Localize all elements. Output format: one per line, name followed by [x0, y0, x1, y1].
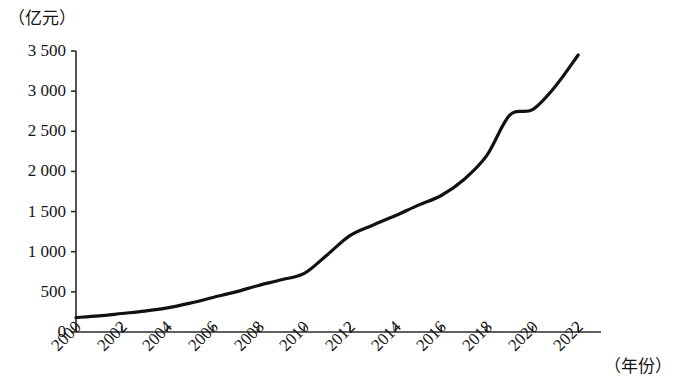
y-axis-unit-label: （亿元）: [8, 4, 76, 29]
y-axis-tick-label: 500: [4, 283, 66, 300]
y-axis-tick-label: 2 500: [4, 122, 66, 139]
y-axis-tick-label: 1 000: [4, 243, 66, 260]
y-axis-tick-label: 1 500: [4, 203, 66, 220]
x-axis-unit-label: （年份）: [604, 352, 672, 377]
chart-axes: [76, 51, 601, 332]
y-axis-tick-label: 3 500: [4, 42, 66, 59]
y-axis-tick-label: 2 000: [4, 162, 66, 179]
y-axis-tick-label: 3 000: [4, 82, 66, 99]
line-chart: （亿元） （年份） 05001 0001 5002 0002 5003 0003…: [0, 0, 675, 392]
data-series-line: [76, 55, 578, 318]
